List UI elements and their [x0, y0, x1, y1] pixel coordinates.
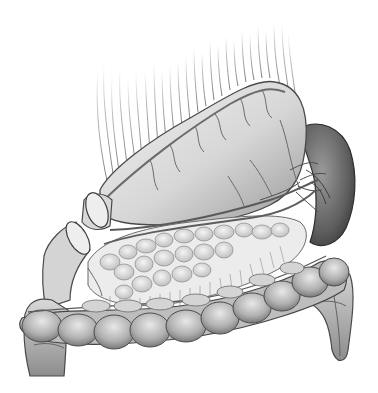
stomach: [100, 81, 318, 230]
illustration-svg: [0, 0, 378, 393]
anatomical-illustration: Grayscale pencil anatomical illustration…: [0, 0, 378, 393]
